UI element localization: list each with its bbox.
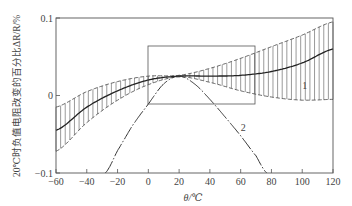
- x-axis-ticks: −60−40−20020406080100120: [48, 169, 340, 187]
- x-tick-label: −20: [110, 176, 126, 187]
- curve-1-label: 1: [302, 80, 307, 91]
- x-tick-label: 0: [146, 176, 151, 187]
- y-tick-label: −0.1: [35, 168, 53, 179]
- x-tick-label: 120: [326, 176, 341, 187]
- tolerance-band-curve-1: [56, 22, 333, 151]
- x-tick-label: 60: [236, 176, 246, 187]
- y-tick-label: 0.1: [41, 13, 54, 24]
- y-axis-label: 20℃时负值电阻改变的百分比ΔR/R/%: [11, 15, 22, 177]
- x-tick-label: 100: [295, 176, 310, 187]
- x-tick-label: −40: [79, 176, 95, 187]
- x-tick-label: 40: [205, 176, 215, 187]
- x-tick-label: 20: [174, 176, 184, 187]
- curve-2-label: 2: [241, 122, 246, 133]
- chart-canvas: −60−40−20020406080100120 0.10−0.1 1 2 θ/…: [0, 0, 352, 206]
- y-tick-label: 0: [48, 90, 53, 101]
- x-tick-label: 80: [266, 176, 276, 187]
- x-axis-label: θ/℃: [184, 192, 203, 203]
